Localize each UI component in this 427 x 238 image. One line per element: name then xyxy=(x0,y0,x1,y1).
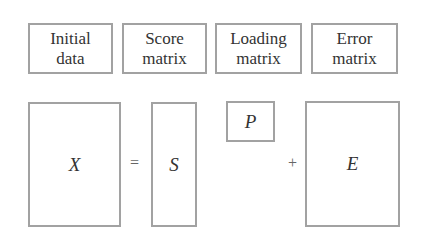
matrix-p: P xyxy=(226,101,275,142)
matrix-e-symbol: E xyxy=(347,153,359,175)
matrix-e: E xyxy=(305,101,400,227)
matrix-x: X xyxy=(28,102,121,227)
label-loading-matrix: Loading matrix xyxy=(215,23,302,74)
matrix-x-symbol: X xyxy=(69,154,81,176)
label-error-matrix-line2: matrix xyxy=(332,49,376,69)
label-error-matrix: Error matrix xyxy=(311,23,398,74)
label-initial-data-line2: data xyxy=(56,49,84,69)
plus-sign: + xyxy=(288,154,297,172)
label-score-matrix: Score matrix xyxy=(122,23,207,74)
label-initial-data: Initial data xyxy=(28,23,113,74)
label-loading-matrix-line2: matrix xyxy=(236,49,280,69)
matrix-p-symbol: P xyxy=(245,111,257,133)
label-score-matrix-line2: matrix xyxy=(142,49,186,69)
label-error-matrix-line1: Error xyxy=(337,29,373,49)
label-loading-matrix-line1: Loading xyxy=(230,29,287,49)
matrix-s-symbol: S xyxy=(169,154,179,176)
label-score-matrix-line1: Score xyxy=(145,29,184,49)
matrix-s: S xyxy=(151,102,197,227)
label-initial-data-line1: Initial xyxy=(50,29,91,49)
equals-sign: = xyxy=(130,154,139,172)
